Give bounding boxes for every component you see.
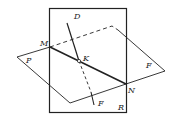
- label-r: R: [117, 103, 124, 112]
- label-f-bottom: F: [97, 99, 104, 108]
- label-p: P: [25, 56, 32, 65]
- label-f-right: F: [145, 61, 152, 70]
- line-df-lower-visible: [91, 92, 94, 105]
- label-d: D: [73, 12, 81, 21]
- label-m: M: [39, 39, 49, 48]
- label-n: N: [127, 86, 136, 95]
- intersection-line-mn: [50, 47, 126, 84]
- point-k: [77, 59, 80, 62]
- geometry-diagram: D M K P F N F R: [0, 0, 175, 120]
- label-k: K: [82, 54, 90, 63]
- plane-p-hidden-edge: [50, 26, 118, 47]
